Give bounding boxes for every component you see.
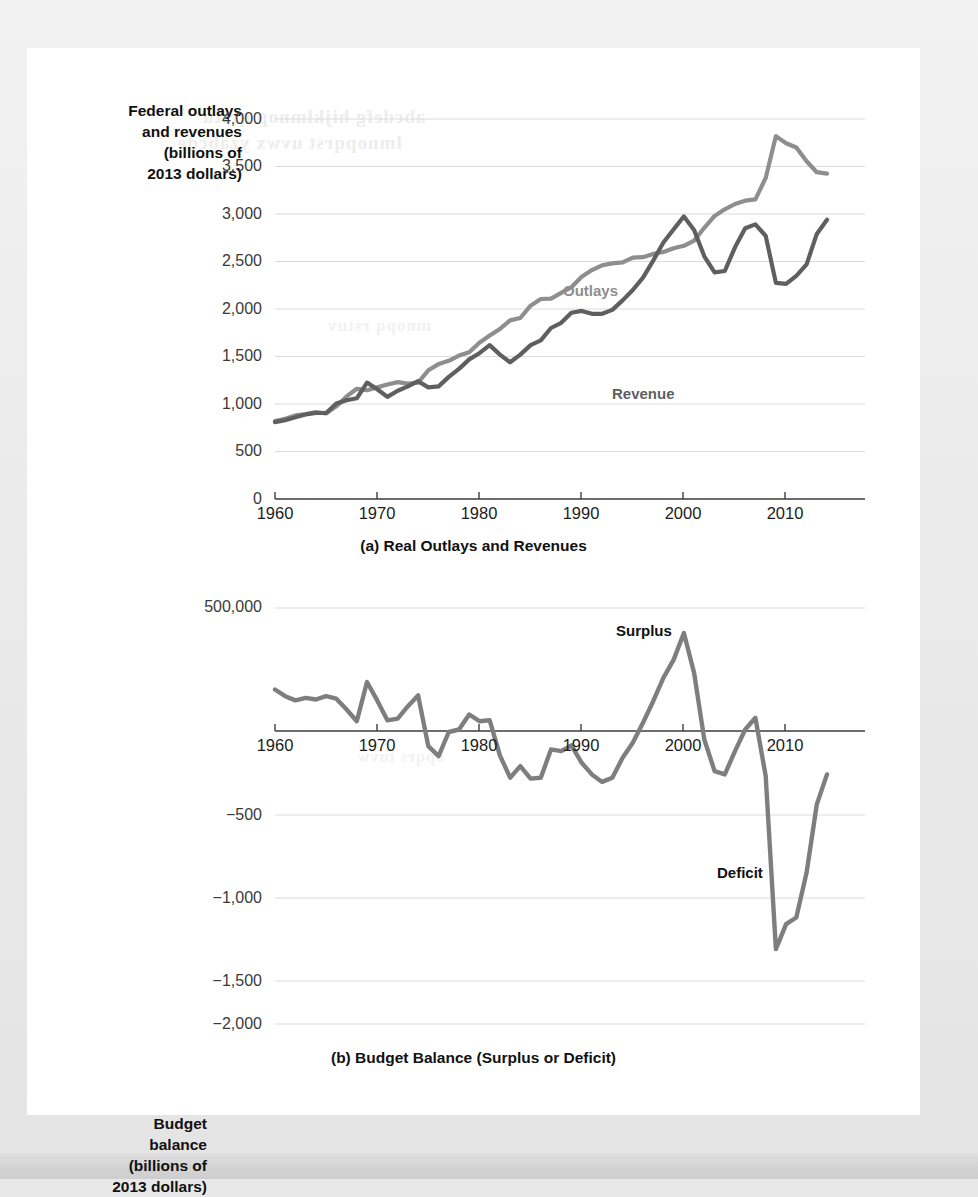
panel-b-xtick-1960: 1960 — [235, 736, 315, 755]
panel-a-xtick-1990: 1990 — [541, 504, 621, 523]
panel-a-xtick-1960: 1960 — [235, 504, 315, 523]
panel-b-axis-title: Budget balance (billions of 2013 dollars… — [57, 1113, 207, 1197]
panel-a-xtick-2010: 2010 — [745, 504, 825, 523]
panel-a-plot — [27, 48, 920, 568]
panel-a-x-axis — [275, 492, 865, 499]
panel-b-xtick-2000: 2000 — [643, 736, 723, 755]
panel-a-xtick-1970: 1970 — [337, 504, 417, 523]
panel-b-budget-balance: Budget balance (billions of 2013 dollars… — [27, 568, 920, 1068]
panel-b-label-surplus: Surplus — [616, 622, 672, 639]
panel-a-real-outlays-and-revenues: Federal outlays and revenues (billions o… — [27, 48, 920, 568]
panel-b-xtick-2010: 2010 — [745, 736, 825, 755]
panel-b-label-deficit: Deficit — [717, 864, 763, 881]
panel-b-zero-axis — [275, 724, 865, 731]
panel-a-xtick-1980: 1980 — [439, 504, 519, 523]
panel-b-caption: (b) Budget Balance (Surplus or Deficit) — [27, 1049, 920, 1067]
panel-a-caption: (a) Real Outlays and Revenues — [27, 537, 920, 555]
panel-a-xtick-2000: 2000 — [643, 504, 723, 523]
figure-card: abcdefg hijklmnop qrstu lmnopqrst uvwx y… — [27, 48, 920, 1115]
panel-b-xtick-1970: 1970 — [337, 736, 417, 755]
panel-b-xtick-1980: 1980 — [439, 736, 519, 755]
panel-b-gridlines — [275, 608, 865, 1024]
panel-a-series-revenue — [275, 216, 827, 422]
panel-a-label-revenue: Revenue — [612, 385, 675, 402]
panel-a-label-outlays: Outlays — [563, 282, 618, 299]
panel-b-series-balance — [275, 633, 827, 949]
panel-a-series-outlays — [275, 136, 827, 421]
panel-b-xtick-1990: 1990 — [541, 736, 621, 755]
panel-b-plot — [27, 568, 920, 1068]
